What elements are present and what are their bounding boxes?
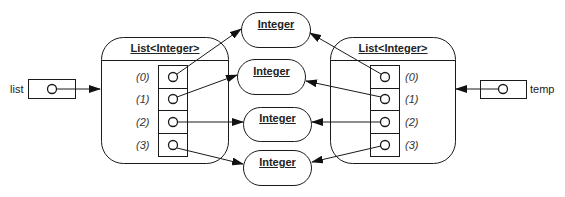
temp-variable-label: temp: [530, 84, 554, 95]
right-index-1: (1): [405, 94, 418, 105]
right-index-0: (0): [405, 72, 418, 83]
right-index-2: (2): [405, 117, 418, 128]
right-list-object: [331, 38, 456, 164]
left-index-1: (1): [136, 94, 149, 105]
list-variable-label: list: [10, 84, 23, 95]
left-index-2: (2): [136, 117, 149, 128]
right-index-3: (3): [405, 140, 418, 151]
left-index-0: (0): [136, 72, 149, 83]
left-list-object: [102, 38, 229, 164]
integer-4-label: Integer: [243, 157, 312, 168]
integer-3-label: Integer: [243, 113, 312, 124]
integer-2-label: Integer: [237, 66, 306, 77]
left-list-title: List<Integer>: [101, 43, 229, 54]
right-list-title: List<Integer>: [330, 43, 456, 54]
integer-1-label: Integer: [241, 19, 311, 30]
left-index-3: (3): [136, 140, 149, 151]
